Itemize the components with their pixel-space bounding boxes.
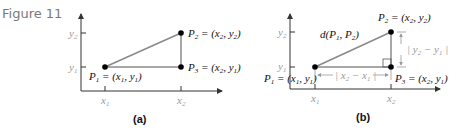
y2-tick-label: y2 — [277, 26, 287, 40]
p3-label: P3 = (x2, y1) — [394, 72, 448, 86]
y1-tick-label: y1 — [68, 61, 77, 75]
point-p3 — [178, 64, 184, 70]
caption-a: (a) — [133, 113, 147, 125]
point-p2 — [388, 29, 394, 35]
p2-label: P2 = (x2, y2) — [187, 27, 241, 41]
horizontal-distance-label: | x2 − x1 | — [335, 69, 376, 83]
x1-tick-label: x1 — [100, 94, 109, 108]
y2-tick-label: y2 — [68, 27, 78, 41]
point-p1 — [102, 64, 108, 70]
p1-label: P1 = (x1, y1) — [263, 72, 317, 86]
vertical-distance-label: | y2 − y1 | — [407, 43, 448, 57]
figure-diagram: y2 y1 x1 x2 P1 = (x1, y1) P2 = (x2, y2) … — [0, 0, 458, 136]
panel-b: y2 y1 x1 x2 | y2 − y1 | | x2 − x1 | d(P1… — [263, 11, 448, 123]
point-p1 — [312, 64, 318, 70]
distance-label: d(P1, P2) — [320, 28, 359, 42]
triangle — [105, 33, 181, 67]
point-p3 — [388, 64, 394, 70]
point-p2 — [178, 30, 184, 36]
caption-b: (b) — [356, 111, 370, 123]
x2-tick-label: x2 — [386, 92, 396, 106]
x1-tick-label: x1 — [310, 92, 319, 106]
p3-label: P3 = (x2, y1) — [187, 61, 241, 75]
x2-tick-label: x2 — [176, 94, 186, 108]
panel-a: y2 y1 x1 x2 P1 = (x1, y1) P2 = (x2, y2) … — [68, 14, 241, 125]
p1-label: P1 = (x1, y1) — [88, 70, 142, 84]
p2-label: P2 = (x2, y2) — [377, 11, 431, 25]
